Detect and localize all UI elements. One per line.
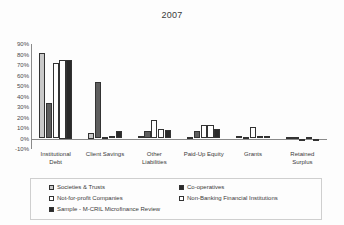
bar	[66, 60, 72, 139]
y-tick-label: 60%	[3, 73, 29, 79]
legend-swatch-icon	[179, 196, 184, 201]
bar	[59, 60, 65, 139]
legend-item-label: Non-Banking Financial Institutions	[187, 195, 278, 202]
bar	[194, 131, 200, 138]
legend-item[interactable]: Not-for-profit Companies	[49, 195, 123, 202]
bar	[286, 137, 292, 139]
bar	[250, 127, 256, 139]
bar	[116, 131, 122, 138]
y-axis-line	[31, 44, 32, 149]
chart-legend: Societies & TrustsCo-operativesNot-for-p…	[30, 178, 322, 220]
legend-item-label: Not-for-profit Companies	[57, 195, 123, 202]
bar	[53, 63, 59, 139]
legend-swatch-icon	[49, 196, 54, 201]
y-axis-tick-labels: 90%80%70%60%50%40%30%20%10%0%-10%	[0, 44, 29, 149]
bar	[299, 139, 305, 141]
bar	[158, 129, 164, 138]
plot-area	[31, 44, 327, 149]
legend-item-label: Co-operatives	[187, 184, 224, 191]
y-tick-label: -10%	[3, 146, 29, 152]
legend-swatch-icon	[179, 185, 184, 190]
x-axis-line	[31, 139, 327, 140]
bar	[46, 103, 52, 139]
bar	[109, 136, 115, 138]
y-tick-label: 30%	[3, 104, 29, 110]
bar	[313, 139, 319, 141]
legend-swatch-icon	[49, 207, 54, 212]
y-tick-label: 80%	[3, 52, 29, 58]
legend-swatch-icon	[49, 185, 54, 190]
y-tick-label: 70%	[3, 62, 29, 68]
x-category-label: Other Liabilities	[130, 151, 179, 166]
bar	[165, 130, 171, 138]
legend-item-label: Sample - M-CRIL Microfinance Review	[57, 206, 160, 213]
bar	[144, 131, 150, 138]
x-axis-category-labels: Institutional DebtClient SavingsOther Li…	[31, 151, 327, 173]
bar	[39, 53, 45, 138]
x-category-label: Retained Surplus	[278, 151, 327, 166]
bar	[257, 136, 263, 138]
x-category-label: Grants	[228, 151, 277, 159]
legend-item[interactable]: Non-Banking Financial Institutions	[179, 195, 278, 202]
legend-item-label: Societies & Trusts	[57, 184, 105, 191]
y-tick-label: 90%	[3, 41, 29, 47]
y-tick-label: 0%	[3, 136, 29, 142]
legend-item[interactable]: Societies & Trusts	[49, 184, 105, 191]
legend-item[interactable]: Co-operatives	[179, 184, 224, 191]
bar	[214, 129, 220, 138]
bar	[292, 137, 298, 139]
x-category-label: Paid-Up Equity	[179, 151, 228, 159]
chart-container: 2007 90%80%70%60%50%40%30%20%10%0%-10% I…	[0, 0, 344, 225]
bar	[102, 137, 108, 139]
bar	[88, 133, 94, 138]
bar	[187, 137, 193, 139]
bar	[201, 125, 207, 139]
x-category-label: Institutional Debt	[31, 151, 80, 166]
bar	[306, 137, 312, 139]
bar	[264, 136, 270, 138]
bar	[138, 136, 144, 138]
legend-item[interactable]: Sample - M-CRIL Microfinance Review	[49, 206, 160, 213]
y-tick-label: 10%	[3, 125, 29, 131]
y-tick-label: 50%	[3, 83, 29, 89]
bar	[95, 82, 101, 139]
y-tick-label: 40%	[3, 94, 29, 100]
bar	[207, 125, 213, 139]
x-category-label: Client Savings	[80, 151, 129, 159]
bar	[151, 120, 157, 139]
bar	[236, 136, 242, 138]
bar	[243, 137, 249, 139]
chart-title: 2007	[0, 10, 344, 20]
y-tick-label: 20%	[3, 115, 29, 121]
